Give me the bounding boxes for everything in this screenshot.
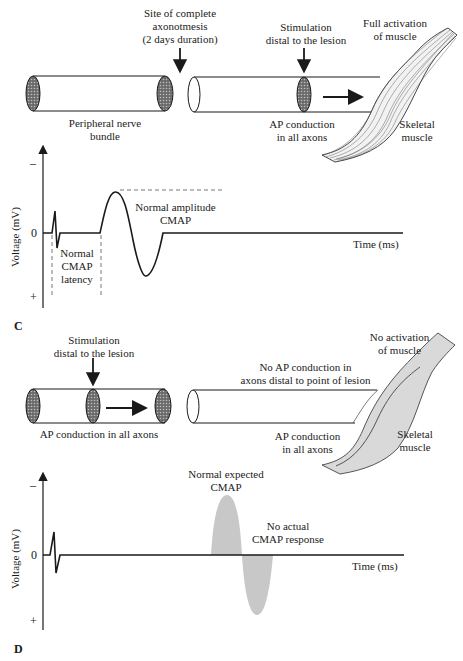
panel-d-graph xyxy=(43,474,404,630)
label-line: distal to the lesion xyxy=(256,34,356,47)
cmap-trace xyxy=(43,192,403,276)
label-line: No actual xyxy=(248,520,328,533)
nerve-bundle-label: Peripheral nerve bundle xyxy=(55,117,155,143)
label-line: distal to the lesion xyxy=(44,347,144,360)
label-line: latency xyxy=(57,273,97,286)
label-line: Skeletal xyxy=(387,118,447,131)
label-line: CMAP xyxy=(57,260,97,273)
label-line: AP conduction xyxy=(270,430,345,443)
ap-conduction-label: AP conduction in all axons xyxy=(270,430,345,456)
nerve-cross-section-icon xyxy=(26,76,40,111)
label-line: CMAP xyxy=(133,214,218,227)
lesion-site-label: Site of complete axonotmesis (2 days dur… xyxy=(128,7,232,46)
label-line: bundle xyxy=(55,130,155,143)
distal-nerve-segment xyxy=(188,77,380,112)
panel-c-letter: C xyxy=(14,319,23,334)
tick-zero: 0 xyxy=(31,548,37,563)
tick-zero: 0 xyxy=(31,226,37,241)
stimulation-site-icon xyxy=(297,77,311,112)
latency-label: Normal CMAP latency xyxy=(57,247,97,286)
expected-cmap-ghost xyxy=(242,555,273,615)
label-line: Skeletal xyxy=(385,428,445,441)
expected-cmap-ghost xyxy=(211,495,242,555)
label-line: CMAP response xyxy=(248,533,328,546)
ap-conduction-bundle-label: AP conduction in all axons xyxy=(34,428,164,441)
label-line: Peripheral nerve xyxy=(55,117,155,130)
tick-minus: – xyxy=(30,478,36,493)
y-axis-label: Voltage (mV) xyxy=(9,519,21,589)
label-line: Site of complete xyxy=(128,7,232,20)
label-line: (2 days duration) xyxy=(128,33,232,46)
amplitude-label: Normal amplitude CMAP xyxy=(133,201,218,227)
label-line: CMAP xyxy=(186,481,266,494)
label-line: in all axons xyxy=(262,131,342,144)
panel-c-graph xyxy=(43,147,403,308)
proximal-nerve-segment xyxy=(26,389,171,423)
no-ap-conduction-label: No AP conduction in axons distal to poin… xyxy=(233,361,378,387)
label-line: of muscle xyxy=(362,344,437,357)
label-line: Stimulation xyxy=(256,21,356,34)
skeletal-muscle-label: Skeletal muscle xyxy=(387,118,447,144)
ap-conduction-label: AP conduction in all axons xyxy=(262,118,342,144)
label-line: Normal amplitude xyxy=(133,201,218,214)
x-axis-label: Time (ms) xyxy=(352,560,398,573)
label-line: muscle xyxy=(385,441,445,454)
stimulation-site-icon xyxy=(86,389,100,423)
nerve-cross-section-icon xyxy=(26,389,40,423)
label-line: axonotmesis xyxy=(128,20,232,33)
label-line: Normal xyxy=(57,247,97,260)
panel-d-letter: D xyxy=(14,642,23,657)
tick-minus: – xyxy=(30,156,36,171)
x-axis-label: Time (ms) xyxy=(353,238,399,251)
label-line: muscle xyxy=(387,131,447,144)
tick-plus: + xyxy=(30,290,37,305)
expected-cmap-label: Normal expected CMAP xyxy=(186,468,266,494)
label-line: axons distal to point of lesion xyxy=(233,374,378,387)
label-line: of muscle xyxy=(355,30,435,43)
label-line: Stimulation xyxy=(44,334,144,347)
nerve-cross-section-icon xyxy=(157,76,173,111)
label-line: in all axons xyxy=(270,443,345,456)
label-line: Full activation xyxy=(355,17,435,30)
label-line: AP conduction xyxy=(262,118,342,131)
tick-plus: + xyxy=(30,614,37,629)
no-activation-label: No activation of muscle xyxy=(362,331,437,357)
nerve-cross-section-icon xyxy=(155,389,171,423)
stimulation-label: Stimulation distal to the lesion xyxy=(44,334,144,360)
distal-nerve-segment xyxy=(187,390,377,423)
proximal-nerve-segment xyxy=(26,76,173,111)
no-actual-cmap-label: No actual CMAP response xyxy=(248,520,328,546)
label-line: No AP conduction in xyxy=(233,361,378,374)
activation-label: Full activation of muscle xyxy=(355,17,435,43)
y-axis-label: Voltage (mV) xyxy=(9,197,21,267)
label-line: Normal expected xyxy=(186,468,266,481)
label-line: No activation xyxy=(362,331,437,344)
stimulation-label: Stimulation distal to the lesion xyxy=(256,21,356,47)
skeletal-muscle-label: Skeletal muscle xyxy=(385,428,445,454)
